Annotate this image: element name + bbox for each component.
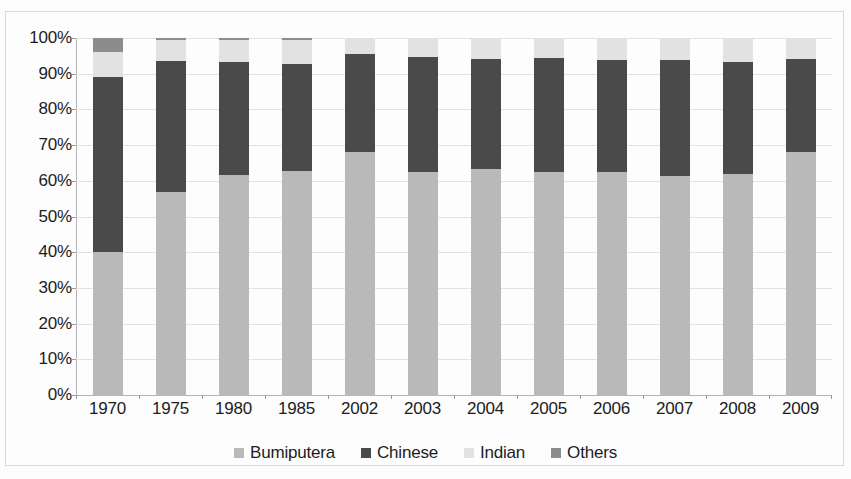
bar-segment-chinese[interactable]: [219, 62, 249, 174]
bar-segment-chinese[interactable]: [723, 62, 753, 174]
legend-label: Bumiputera: [250, 443, 335, 463]
bar-segment-bumiputera[interactable]: [534, 172, 564, 395]
y-axis-tick-label: 80%: [39, 99, 72, 119]
legend-label: Indian: [480, 443, 525, 463]
chart-container: 0%10%20%30%40%50%60%70%80%90%100% 197019…: [0, 0, 851, 479]
x-axis: 1970197519801985200220032004200520062007…: [76, 399, 832, 425]
bar-segment-others[interactable]: [156, 38, 186, 40]
y-axis-tick-label: 100%: [29, 28, 72, 48]
bar-segment-indian[interactable]: [597, 38, 627, 60]
bar-segment-bumiputera[interactable]: [723, 174, 753, 395]
stacked-bar[interactable]: [471, 38, 501, 395]
stacked-bar[interactable]: [282, 38, 312, 395]
bar-segment-chinese[interactable]: [282, 64, 312, 171]
stacked-bar[interactable]: [219, 38, 249, 395]
bar-segment-chinese[interactable]: [660, 60, 690, 176]
legend-swatch-icon: [464, 448, 474, 458]
bar-segment-bumiputera[interactable]: [597, 172, 627, 395]
bar-slot: [517, 38, 580, 395]
y-axis-tick-label: 90%: [39, 64, 72, 84]
bar-segment-bumiputera[interactable]: [93, 252, 123, 395]
x-axis-label: 2005: [517, 399, 580, 425]
chart-legend: BumiputeraChineseIndianOthers: [0, 443, 851, 463]
x-axis-label: 1975: [139, 399, 202, 425]
stacked-bar[interactable]: [534, 38, 564, 395]
stacked-bar[interactable]: [156, 38, 186, 395]
y-axis-tick-label: 20%: [39, 314, 72, 334]
y-axis-tick-label: 0%: [48, 385, 72, 405]
bar-slot: [643, 38, 706, 395]
bar-segment-bumiputera[interactable]: [219, 175, 249, 395]
stacked-bar[interactable]: [597, 38, 627, 395]
stacked-bar[interactable]: [408, 38, 438, 395]
bar-segment-indian[interactable]: [282, 40, 312, 64]
bar-slot: [202, 38, 265, 395]
stacked-bar[interactable]: [93, 38, 123, 395]
x-axis-label: 1980: [202, 399, 265, 425]
bar-segment-bumiputera[interactable]: [786, 152, 816, 395]
stacked-bar[interactable]: [660, 38, 690, 395]
bar-segment-bumiputera[interactable]: [471, 169, 501, 395]
legend-item-chinese[interactable]: Chinese: [361, 443, 438, 463]
bar-segment-indian[interactable]: [786, 38, 816, 59]
legend-label: Others: [567, 443, 617, 463]
bar-slot: [454, 38, 517, 395]
x-axis-label: 1970: [76, 399, 139, 425]
bar-segment-others[interactable]: [93, 38, 123, 52]
bar-segment-chinese[interactable]: [93, 77, 123, 252]
bar-group: [76, 38, 832, 395]
y-axis-tick-label: 10%: [39, 349, 72, 369]
bar-segment-chinese[interactable]: [471, 59, 501, 169]
legend-swatch-icon: [361, 448, 371, 458]
y-axis: 0%10%20%30%40%50%60%70%80%90%100%: [10, 38, 72, 395]
legend-item-others[interactable]: Others: [551, 443, 617, 463]
x-axis-label: 2003: [391, 399, 454, 425]
bar-segment-indian[interactable]: [219, 40, 249, 62]
x-axis-label: 2008: [706, 399, 769, 425]
bar-segment-chinese[interactable]: [786, 59, 816, 152]
legend-item-indian[interactable]: Indian: [464, 443, 525, 463]
legend-swatch-icon: [234, 448, 244, 458]
bar-slot: [769, 38, 832, 395]
bar-segment-bumiputera[interactable]: [345, 152, 375, 395]
bar-segment-indian[interactable]: [723, 38, 753, 62]
y-axis-tick-label: 40%: [39, 242, 72, 262]
x-axis-label: 2004: [454, 399, 517, 425]
x-axis-label: 1985: [265, 399, 328, 425]
bar-segment-bumiputera[interactable]: [408, 172, 438, 395]
legend-label: Chinese: [377, 443, 438, 463]
x-axis-label: 2006: [580, 399, 643, 425]
bar-slot: [139, 38, 202, 395]
bar-segment-bumiputera[interactable]: [282, 171, 312, 395]
bar-segment-indian[interactable]: [345, 38, 375, 54]
legend-item-bumiputera[interactable]: Bumiputera: [234, 443, 335, 463]
stacked-bar[interactable]: [723, 38, 753, 395]
bar-segment-indian[interactable]: [408, 38, 438, 57]
bar-segment-bumiputera[interactable]: [660, 176, 690, 395]
x-axis-label: 2009: [769, 399, 832, 425]
stacked-bar[interactable]: [786, 38, 816, 395]
bar-segment-chinese[interactable]: [156, 61, 186, 193]
bar-segment-indian[interactable]: [534, 38, 564, 58]
bar-segment-indian[interactable]: [93, 52, 123, 77]
bar-slot: [265, 38, 328, 395]
bar-slot: [76, 38, 139, 395]
y-axis-tick-label: 50%: [39, 207, 72, 227]
bar-slot: [328, 38, 391, 395]
bar-segment-chinese[interactable]: [345, 54, 375, 152]
bar-segment-indian[interactable]: [471, 38, 501, 59]
bar-segment-chinese[interactable]: [597, 60, 627, 172]
bar-segment-others[interactable]: [219, 38, 249, 40]
bar-segment-bumiputera[interactable]: [156, 192, 186, 395]
stacked-bar[interactable]: [345, 38, 375, 395]
bar-segment-chinese[interactable]: [408, 57, 438, 173]
y-axis-tick-label: 60%: [39, 171, 72, 191]
bar-segment-chinese[interactable]: [534, 58, 564, 172]
bar-segment-others[interactable]: [282, 38, 312, 40]
bar-slot: [706, 38, 769, 395]
bar-segment-indian[interactable]: [660, 38, 690, 60]
y-axis-tick-label: 70%: [39, 135, 72, 155]
bar-segment-indian[interactable]: [156, 40, 186, 61]
x-axis-label: 2002: [328, 399, 391, 425]
y-axis-tick-label: 30%: [39, 278, 72, 298]
